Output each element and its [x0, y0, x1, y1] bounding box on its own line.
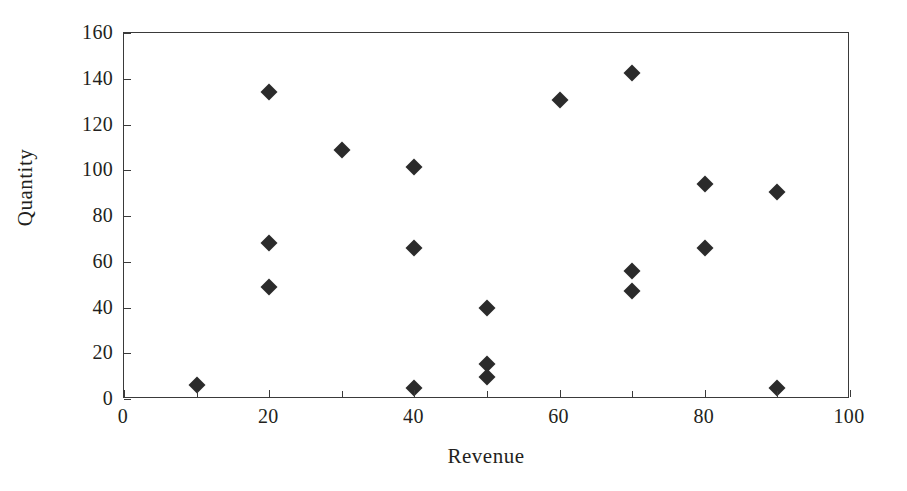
x-axis-tick	[414, 390, 415, 397]
y-axis-tick	[124, 33, 131, 34]
x-axis-tick-label: 60	[514, 406, 604, 426]
y-axis-tick	[124, 216, 131, 217]
x-axis-tick-label: 0	[78, 406, 168, 426]
data-point-marker	[479, 369, 496, 386]
y-axis-tick-label: 0	[3, 388, 113, 408]
data-point-marker	[624, 283, 641, 300]
x-axis-tick-label: 20	[223, 406, 313, 426]
data-point-marker	[696, 240, 713, 257]
y-axis-tick	[124, 308, 131, 309]
y-axis-title: Quantity	[13, 58, 38, 318]
x-axis-minor-tick	[487, 391, 488, 397]
x-axis-tick	[705, 390, 706, 397]
plot-frame	[123, 32, 849, 398]
data-point-marker	[333, 141, 350, 158]
data-point-marker	[769, 183, 786, 200]
x-axis-tick	[269, 390, 270, 397]
x-axis-minor-tick	[632, 391, 633, 397]
x-axis-minor-tick	[197, 391, 198, 397]
data-point-marker	[551, 92, 568, 109]
x-axis-tick-label: 40	[368, 406, 458, 426]
data-point-marker	[624, 65, 641, 82]
x-axis-tick	[124, 390, 125, 397]
scatter-chart-figure: 020406080100120140160 Quantity 020406080…	[0, 0, 907, 491]
x-axis-title: Revenue	[123, 444, 849, 469]
x-axis-minor-tick	[777, 391, 778, 397]
x-axis-minor-tick	[342, 391, 343, 397]
plot-area	[124, 33, 848, 397]
y-axis-tick	[124, 170, 131, 171]
y-axis-tick-label: 20	[3, 342, 113, 362]
x-axis-tick	[560, 390, 561, 397]
x-axis-tick-label: 80	[659, 406, 749, 426]
x-axis-tick	[850, 390, 851, 397]
data-point-marker	[406, 240, 423, 257]
y-axis-tick	[124, 353, 131, 354]
data-point-marker	[406, 158, 423, 175]
x-axis-tick-label: 100	[804, 406, 894, 426]
x-axis-tick-labels: 020406080100	[123, 406, 849, 434]
y-axis-tick	[124, 399, 131, 400]
y-axis-tick-label: 160	[3, 22, 113, 42]
data-point-marker	[624, 262, 641, 279]
data-point-marker	[261, 235, 278, 252]
data-point-marker	[261, 278, 278, 295]
y-axis-tick	[124, 262, 131, 263]
data-point-marker	[696, 175, 713, 192]
data-point-marker	[261, 84, 278, 101]
data-point-marker	[479, 299, 496, 316]
y-axis-tick	[124, 125, 131, 126]
y-axis-tick	[124, 79, 131, 80]
